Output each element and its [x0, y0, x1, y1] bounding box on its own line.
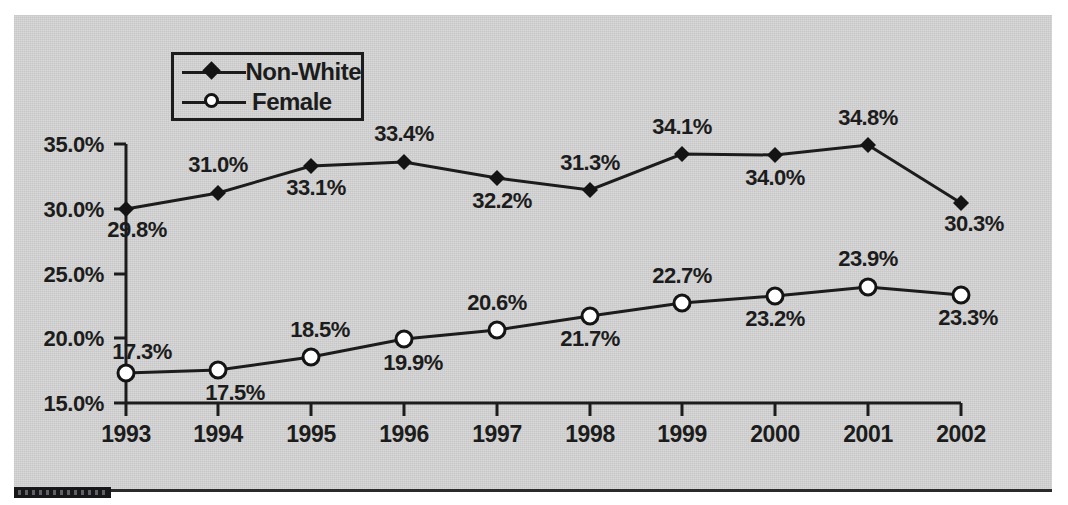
point-label-non-white-1996: 33.4% — [349, 121, 459, 147]
x-tick-label-2001: 2001 — [818, 421, 918, 448]
chart-legend: Non-White Female — [171, 52, 364, 121]
chart-panel: 35.0% 30.0% 25.0% 20.0% 15.0% 1993 1994 … — [14, 15, 1052, 490]
point-label-non-white-1999: 34.1% — [627, 114, 737, 140]
point-label-female-1993: 17.3% — [87, 339, 197, 365]
point-label-non-white-2000: 34.0% — [720, 165, 830, 191]
point-label-female-1995: 18.5% — [265, 317, 375, 343]
point-label-female-2000: 23.2% — [720, 306, 830, 332]
y-tick-label-15: 15.0% — [4, 391, 104, 417]
x-tick-label-1994: 1994 — [168, 421, 268, 448]
point-label-non-white-1995: 33.1% — [261, 175, 371, 201]
point-label-female-1998: 21.7% — [535, 326, 645, 352]
x-tick-label-1999: 1999 — [632, 421, 732, 448]
point-label-female-1994: 17.5% — [180, 380, 290, 406]
legend-label-female: Female — [252, 88, 332, 116]
plot-area: 35.0% 30.0% 25.0% 20.0% 15.0% 1993 1994 … — [14, 15, 1052, 490]
point-label-female-1996: 19.9% — [358, 350, 468, 376]
y-tick-label-35: 35.0% — [4, 132, 104, 158]
diamond-marker-icon — [182, 60, 240, 84]
legend-label-non-white: Non-White — [246, 58, 361, 86]
circle-marker-icon — [182, 90, 246, 114]
scan-footer-block — [14, 487, 111, 498]
point-label-female-1997: 20.6% — [442, 290, 552, 316]
x-tick-label-2000: 2000 — [725, 421, 825, 448]
panel-bottom-rule — [14, 489, 1052, 492]
y-tick-label-25: 25.0% — [4, 262, 104, 288]
point-label-non-white-1998: 31.3% — [535, 150, 645, 176]
point-label-female-2001: 23.9% — [813, 246, 923, 272]
point-label-non-white-1994: 31.0% — [163, 152, 273, 178]
x-tick-label-1998: 1998 — [540, 421, 640, 448]
point-label-non-white-1997: 32.2% — [447, 188, 557, 214]
point-label-female-2002: 23.3% — [913, 305, 1023, 331]
legend-item-non-white[interactable]: Non-White — [174, 57, 361, 87]
x-tick-label-1996: 1996 — [354, 421, 454, 448]
point-label-non-white-2002: 30.3% — [919, 211, 1029, 237]
chart-page: 35.0% 30.0% 25.0% 20.0% 15.0% 1993 1994 … — [0, 0, 1068, 505]
x-tick-label-1995: 1995 — [261, 421, 361, 448]
legend-item-female[interactable]: Female — [174, 87, 361, 117]
point-label-non-white-1993: 29.8% — [82, 217, 192, 243]
x-tick-label-2002: 2002 — [911, 421, 1011, 448]
point-label-female-1999: 22.7% — [627, 263, 737, 289]
x-tick-label-1997: 1997 — [447, 421, 547, 448]
point-label-non-white-2001: 34.8% — [813, 105, 923, 131]
x-tick-label-1993: 1993 — [76, 421, 176, 448]
